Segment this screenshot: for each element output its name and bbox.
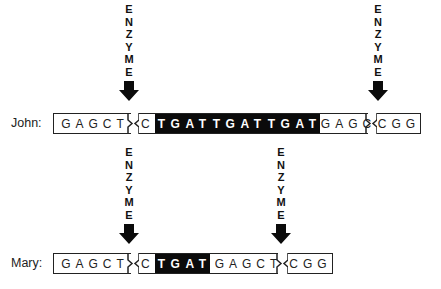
dna-fragment: C TGAT TGAT TGAT GAGCT — [139, 113, 368, 134]
sequence-segment-highlight: TGAT — [265, 114, 320, 133]
enzyme-letter: Y — [124, 41, 133, 54]
enzyme-john-left: E N Z Y M E — [117, 3, 141, 101]
enzyme-letter: M — [124, 196, 133, 209]
enzyme-label: E N Z Y M E — [124, 146, 133, 221]
enzyme-letter: E — [276, 209, 285, 222]
enzyme-letter: E — [373, 66, 382, 79]
enzyme-letter: Y — [276, 184, 285, 197]
dna-fragment: CGG — [377, 113, 421, 134]
enzyme-letter: Z — [373, 28, 382, 41]
enzyme-mary-right: E N Z Y M E — [269, 146, 293, 244]
sequence-segment: GAGCT — [54, 114, 131, 133]
enzyme-letter: N — [373, 16, 382, 29]
enzyme-label: E N Z Y M E — [276, 146, 285, 221]
sequence-segment: GAGCT — [54, 254, 131, 273]
enzyme-letter: Y — [124, 184, 133, 197]
sequence-segment-highlight: TGAT — [210, 114, 265, 133]
dna-fragment: CGG — [288, 253, 333, 274]
sequence-segment: CGG — [377, 114, 419, 133]
enzyme-letter: M — [124, 53, 133, 66]
dna-fragment: C TGAT GAGCT — [139, 253, 278, 274]
row-label-mary: Mary: — [11, 256, 42, 270]
enzyme-letter: M — [276, 196, 285, 209]
dna-fragment: GAGCT — [53, 113, 131, 134]
enzyme-label: E N Z Y M E — [373, 3, 382, 78]
sequence-segment-highlight: TGAT — [155, 114, 210, 133]
enzyme-letter: E — [124, 3, 133, 16]
row-label-john: John: — [11, 116, 42, 130]
down-arrow-icon — [368, 81, 388, 101]
down-arrow-icon — [271, 224, 291, 244]
sequence-segment: C — [139, 254, 155, 273]
sequence-segment: GAGCT — [210, 254, 283, 273]
enzyme-letter: N — [124, 159, 133, 172]
dna-fragment: GAGCT — [53, 253, 131, 274]
enzyme-letter: E — [276, 146, 285, 159]
enzyme-john-right: E N Z Y M E — [366, 3, 390, 101]
enzyme-letter: Y — [373, 41, 382, 54]
enzyme-letter: Z — [124, 28, 133, 41]
enzyme-letter: N — [124, 16, 133, 29]
sequence-segment: C — [139, 114, 155, 133]
enzyme-letter: Z — [124, 171, 133, 184]
sequence-segment: CGG — [288, 254, 331, 273]
down-arrow-icon — [119, 224, 139, 244]
enzyme-letter: E — [124, 209, 133, 222]
enzyme-letter: E — [373, 3, 382, 16]
enzyme-letter: M — [373, 53, 382, 66]
enzyme-letter: E — [124, 66, 133, 79]
enzyme-label: E N Z Y M E — [124, 3, 133, 78]
enzyme-letter: N — [276, 159, 285, 172]
sequence-segment-highlight: TGAT — [155, 254, 210, 273]
enzyme-letter: Z — [276, 171, 285, 184]
enzyme-letter: E — [124, 146, 133, 159]
enzyme-mary-left: E N Z Y M E — [117, 146, 141, 244]
down-arrow-icon — [119, 81, 139, 101]
